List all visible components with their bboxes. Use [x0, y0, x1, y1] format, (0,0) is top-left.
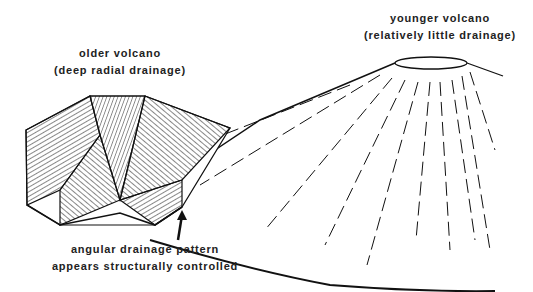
younger-volcano-label: younger volcano (relatively little drain…: [355, 10, 525, 44]
crater: [395, 57, 467, 69]
older-volcano-label: older volcano (deep radial drainage): [40, 45, 200, 79]
angular-drainage-line1: angular drainage pattern: [45, 241, 245, 258]
annotation-arrow: [177, 210, 187, 240]
angular-drainage-label: angular drainage pattern appears structu…: [45, 241, 245, 275]
older-volcano-title: older volcano: [40, 45, 200, 62]
older-volcano: [26, 96, 230, 225]
older-volcano-subtitle: (deep radial drainage): [40, 62, 200, 79]
angular-drainage-line2: appears structurally controlled: [45, 258, 245, 275]
younger-volcano-subtitle: (relatively little drainage): [355, 27, 525, 44]
younger-volcano-title: younger volcano: [355, 10, 525, 27]
